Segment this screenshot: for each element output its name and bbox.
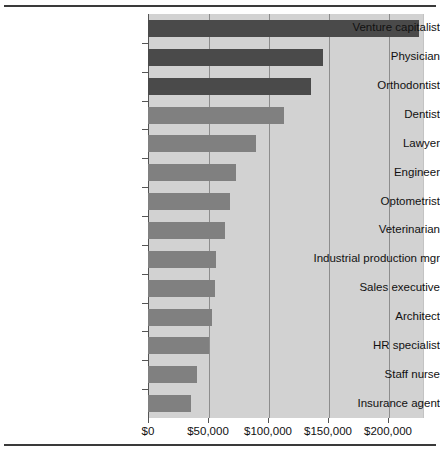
x-axis-tick xyxy=(208,418,209,423)
category-label: Optometrist xyxy=(298,195,440,208)
bar[interactable] xyxy=(148,78,311,95)
bar[interactable] xyxy=(148,49,323,66)
gridline xyxy=(209,14,210,418)
x-axis-tick-label: $150,000 xyxy=(304,424,352,438)
bar[interactable] xyxy=(148,366,197,383)
y-axis-tick xyxy=(142,43,148,44)
bar[interactable] xyxy=(148,164,236,181)
y-axis-tick xyxy=(142,216,148,217)
bar[interactable] xyxy=(148,107,284,124)
bar[interactable] xyxy=(148,395,191,412)
category-label: Insurance agent xyxy=(298,397,440,410)
y-axis-line xyxy=(148,14,149,420)
y-axis-tick xyxy=(142,360,148,361)
y-axis-tick xyxy=(142,101,148,102)
x-axis-tick xyxy=(388,418,389,423)
bar[interactable] xyxy=(148,337,209,354)
x-axis-tick xyxy=(328,418,329,423)
y-axis-tick xyxy=(142,331,148,332)
category-label: Architect xyxy=(298,310,440,323)
y-axis-tick xyxy=(142,72,148,73)
page-rule-bottom xyxy=(4,444,436,446)
gridline xyxy=(269,14,270,418)
bar[interactable] xyxy=(148,309,212,326)
y-axis-tick xyxy=(142,129,148,130)
x-axis-tick-label: $200,000 xyxy=(364,424,412,438)
x-axis-tick-label: $50,000 xyxy=(187,424,229,438)
page-rule-top xyxy=(4,5,436,7)
x-axis-tick xyxy=(268,418,269,423)
category-label: Sales executive xyxy=(298,281,440,294)
category-label: Dentist xyxy=(298,108,440,121)
category-label: Industrial production mgr xyxy=(298,252,440,265)
bar[interactable] xyxy=(148,193,230,210)
category-label: Engineer xyxy=(298,166,440,179)
category-label: HR specialist xyxy=(298,339,440,352)
bar[interactable] xyxy=(148,222,225,239)
bar[interactable] xyxy=(148,135,256,152)
y-axis-tick xyxy=(142,389,148,390)
y-axis-tick xyxy=(142,274,148,275)
category-label: Staff nurse xyxy=(298,368,440,381)
category-label: Veterinarian xyxy=(298,223,440,236)
category-label: Venture capitalist xyxy=(298,21,440,34)
gridline xyxy=(389,14,390,418)
bar[interactable] xyxy=(148,280,215,297)
plot-area xyxy=(148,14,424,418)
bar-chart-figure: Venture capitalistPhysicianOrthodontistD… xyxy=(0,0,440,453)
category-label: Physician xyxy=(298,50,440,63)
category-label: Lawyer xyxy=(298,137,440,150)
x-axis-tick-label: $0 xyxy=(142,424,155,438)
y-axis-tick xyxy=(142,303,148,304)
y-axis-tick xyxy=(142,158,148,159)
bar[interactable] xyxy=(148,251,216,268)
category-label: Orthodontist xyxy=(298,79,440,92)
x-axis-tick xyxy=(148,418,149,423)
y-axis-tick xyxy=(142,245,148,246)
y-axis-tick xyxy=(142,187,148,188)
gridline xyxy=(329,14,330,418)
x-axis-tick-label: $100,000 xyxy=(244,424,292,438)
